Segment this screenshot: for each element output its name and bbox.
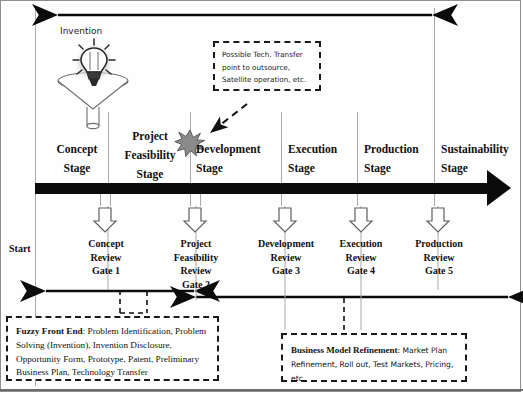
gate-4-line1: Execution <box>329 237 393 251</box>
gate-5-line3: Gate 5 <box>406 264 472 278</box>
gate-5-line2: Review <box>406 251 472 265</box>
gate-2-line2: Feasibility <box>163 251 229 265</box>
gate-label-1: Concept Review Gate 1 <box>76 237 136 278</box>
fuzzy-front-end-heading: Fuzzy Front End <box>16 326 83 336</box>
gate-3-line1: Development <box>250 237 322 251</box>
gate-label-5: Production Review Gate 5 <box>406 237 472 278</box>
gate-4-line2: Review <box>329 251 393 265</box>
gate-4-line3: Gate 4 <box>329 264 393 278</box>
gate-1-line2: Review <box>76 251 136 265</box>
gate-arrow-group <box>94 208 449 232</box>
gate-1-line3: Gate 1 <box>76 264 136 278</box>
business-model-refinement-box: Business Model Refinement: Market Plan R… <box>281 333 467 382</box>
gate-label-2: Project Feasibility Review Gate 2 <box>163 237 229 291</box>
gate-2-line1: Project <box>163 237 229 251</box>
fuzzy-front-end-box: Fuzzy Front End: Problem Identification,… <box>6 316 219 381</box>
fuzzy-front-end-text: Fuzzy Front End: Problem Identification,… <box>8 318 217 387</box>
diagram-canvas: Invention Possible Tech. Transfer point … <box>0 0 523 394</box>
gate-arrow-4 <box>350 208 372 232</box>
gate-3-line2: Review <box>250 251 322 265</box>
bmr-heading: Business Model Refinement <box>291 345 398 355</box>
gate-arrow-3 <box>274 208 296 232</box>
gate-2-line4: Gate 2 <box>163 278 229 292</box>
gate-1-line1: Concept <box>76 237 136 251</box>
gate-arrow-2 <box>184 208 206 232</box>
gate-2-line3: Review <box>163 264 229 278</box>
gate-arrow-1 <box>94 208 116 232</box>
gate-label-4: Execution Review Gate 4 <box>329 237 393 278</box>
gate-5-line1: Production <box>406 237 472 251</box>
gate-arrow-5 <box>427 208 449 232</box>
business-model-refinement-text: Business Model Refinement: Market Plan R… <box>283 335 465 393</box>
gate-3-line3: Gate 3 <box>250 264 322 278</box>
gate-label-3: Development Review Gate 3 <box>250 237 322 278</box>
start-label: Start <box>9 243 31 254</box>
